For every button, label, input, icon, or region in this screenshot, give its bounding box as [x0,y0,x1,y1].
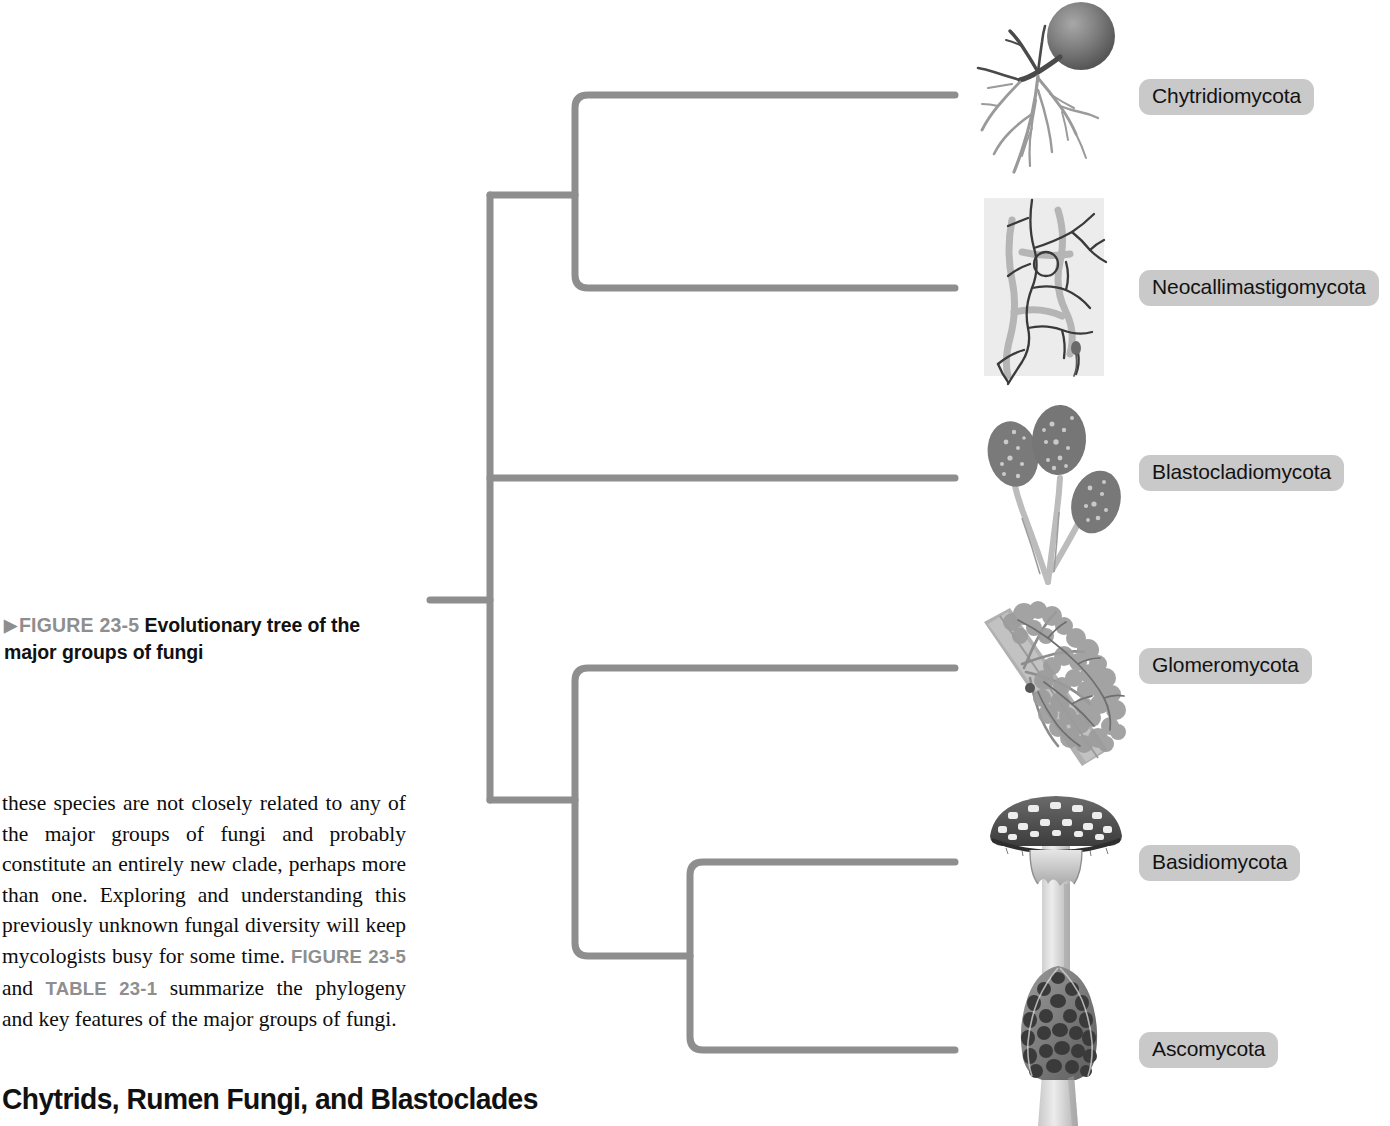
taxon-label-chytridiomycota: Chytridiomycota [1139,79,1314,115]
arbuscular-mycorrhiza-on-root-illustration [948,592,1143,792]
figure-arrow-icon: ▶ [4,616,17,635]
branch-glomero [575,668,955,956]
taxon-label-blastocladiomycota: Blastocladiomycota [1139,455,1344,491]
taxon-label-ascomycota: Ascomycota [1139,1032,1278,1068]
body-paragraph: these species are not closely related to… [2,788,406,1035]
branch-chytrid [575,95,955,288]
rumen-fungus-hyphal-network-illustration [962,192,1142,397]
blastoclade-sporangia-cluster-illustration [968,402,1143,587]
section-heading: Chytrids, Rumen Fungi, and Blastoclades [2,1081,716,1117]
figure-caption: ▶FIGURE 23-5 Evolutionary tree of the ma… [4,612,404,665]
figure-number: FIGURE 23-5 [19,614,139,636]
body-text-part-2: and [2,976,46,1000]
morel-mushroom-illustration [986,962,1136,1126]
gilled-mushroom-illustration [982,788,1142,988]
body-text-part-1: these species are not closely related to… [2,791,406,968]
taxon-label-glomeromycota: Glomeromycota [1139,648,1312,684]
chytrid-sporangium-with-rhizoids-illustration [950,0,1150,185]
taxon-label-neocallimastigomycota: Neocallimastigomycota [1139,270,1379,306]
cross-reference-table: TABLE 23-1 [46,978,158,999]
taxon-label-basidiomycota: Basidiomycota [1139,845,1300,881]
branch-basidio-asco [690,862,955,1050]
cross-reference-figure: FIGURE 23-5 [291,946,406,967]
